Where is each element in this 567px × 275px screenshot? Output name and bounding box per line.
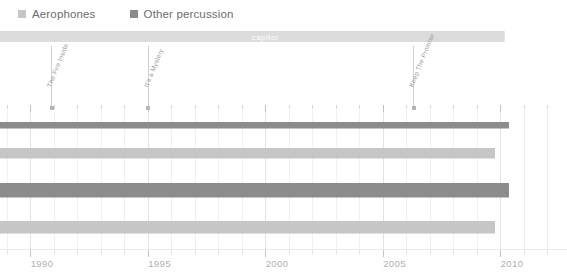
x-axis-tick-minor <box>406 250 407 254</box>
legend-label: Other percussion <box>144 8 234 20</box>
legend-entry[interactable]: Other percussion <box>130 8 234 20</box>
plot-tick-minor <box>171 105 172 109</box>
group-band-label: capitol <box>252 32 279 41</box>
gridline-minor <box>547 111 548 250</box>
x-axis-label: 1990 <box>31 258 54 269</box>
plot-tick-major <box>30 105 31 112</box>
plot-tick-minor <box>54 105 55 109</box>
gridline-minor <box>524 111 525 250</box>
x-axis-label: 2010 <box>501 258 524 269</box>
bar-fill <box>0 148 495 159</box>
bar-fill <box>0 221 495 234</box>
x-axis-label: 1995 <box>148 258 171 269</box>
legend-label: Aerophones <box>32 8 96 20</box>
event-label: It's a Mystery <box>142 47 164 88</box>
x-axis-tick-minor <box>453 250 454 254</box>
plot-tick-minor <box>547 105 548 109</box>
x-axis-tick-major <box>500 250 501 257</box>
plot-tick-minor <box>124 105 125 109</box>
plot-tick-major <box>148 105 149 112</box>
x-axis-tick-major <box>383 250 384 257</box>
plot-tick-minor <box>477 105 478 109</box>
x-axis-tick-major <box>30 250 31 257</box>
x-axis-tick-minor <box>101 250 102 254</box>
x-axis-tick-minor <box>289 250 290 254</box>
legend-swatch-icon <box>18 10 26 18</box>
x-axis: 19901995200020052010 <box>0 250 567 275</box>
x-axis-tick-minor <box>124 250 125 254</box>
plot-tick-minor <box>77 105 78 109</box>
plot-tick-minor <box>359 105 360 109</box>
bar-fill <box>0 183 509 198</box>
event-label: The Fire Inside <box>46 42 70 88</box>
gridline-major <box>500 111 501 250</box>
bar[interactable] <box>0 148 495 159</box>
plot-tick-minor <box>430 105 431 109</box>
x-axis-tick-minor <box>77 250 78 254</box>
x-axis-tick-minor <box>336 250 337 254</box>
plot-tick-minor <box>406 105 407 109</box>
x-axis-tick-major <box>265 250 266 257</box>
plot-tick-minor <box>242 105 243 109</box>
x-axis-tick-minor <box>547 250 548 254</box>
bar[interactable] <box>0 183 509 198</box>
chart-legend: AerophonesOther percussion <box>18 6 234 22</box>
x-axis-tick-minor <box>54 250 55 254</box>
plot-tick-major <box>383 105 384 112</box>
x-axis-tick-minor <box>242 250 243 254</box>
x-axis-tick-minor <box>171 250 172 254</box>
legend-swatch-icon <box>130 10 138 18</box>
x-axis-tick-minor <box>195 250 196 254</box>
x-axis-tick-minor <box>477 250 478 254</box>
bar[interactable] <box>0 122 509 129</box>
x-axis-tick-minor <box>359 250 360 254</box>
x-axis-tick-minor <box>7 250 8 254</box>
x-axis-tick-minor <box>312 250 313 254</box>
plot-tick-minor <box>453 105 454 109</box>
plot-tick-minor <box>195 105 196 109</box>
legend-entry[interactable]: Aerophones <box>18 8 96 20</box>
x-axis-tick-minor <box>430 250 431 254</box>
plot-tick-minor <box>312 105 313 109</box>
bar-fill <box>0 122 509 129</box>
x-axis-tick-major <box>148 250 149 257</box>
plot-area <box>0 105 567 250</box>
plot-tick-minor <box>101 105 102 109</box>
plot-tick-minor <box>336 105 337 109</box>
bar[interactable] <box>0 221 495 234</box>
plot-tick-major <box>265 105 266 112</box>
plot-tick-minor <box>218 105 219 109</box>
x-axis-label: 2005 <box>383 258 406 269</box>
plot-tick-major <box>500 105 501 112</box>
x-axis-tick-minor <box>524 250 525 254</box>
plot-tick-minor <box>289 105 290 109</box>
plot-tick-minor <box>524 105 525 109</box>
plot-tick-minor <box>7 105 8 109</box>
x-axis-label: 2000 <box>266 258 289 269</box>
x-axis-tick-minor <box>218 250 219 254</box>
